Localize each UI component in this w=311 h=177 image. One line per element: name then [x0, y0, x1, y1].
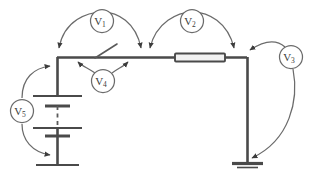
- meter-v3[interactable]: V3: [280, 46, 303, 69]
- circuit-schematic: V1 V2 V3 V4 V5: [0, 0, 311, 177]
- arc-v3-top: [250, 42, 285, 50]
- meter-v5[interactable]: V5: [11, 100, 34, 123]
- arc-v4-left: [78, 62, 95, 73]
- circuit-diagram-canvas: V1 V2 V3 V4 V5: [0, 0, 311, 177]
- switch[interactable]: [95, 44, 117, 58]
- arc-v4-right: [112, 62, 128, 73]
- wire-network: [57, 57, 248, 165]
- meter-v1[interactable]: V1: [91, 10, 114, 33]
- meter-v4[interactable]: V4: [92, 70, 115, 93]
- resistor-body: [175, 54, 225, 62]
- meter-v2[interactable]: V2: [181, 10, 204, 33]
- resistor: [175, 54, 225, 62]
- arc-v5-top: [22, 66, 50, 98]
- ground: [232, 164, 263, 168]
- switch-blade[interactable]: [95, 44, 117, 58]
- arc-v3-bottom: [252, 69, 295, 158]
